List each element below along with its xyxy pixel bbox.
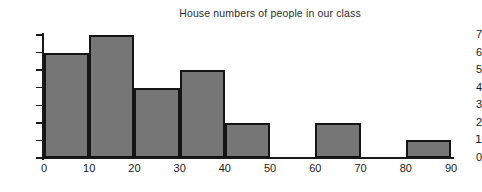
y-tick-label: 5 [456,64,482,75]
x-tick-label: 80 [386,163,426,174]
histogram-bar [180,70,225,158]
y-tick-mark [36,157,43,159]
histogram-chart: House numbers of people in our class 012… [0,0,482,192]
x-tick-label: 40 [205,163,245,174]
histogram-bar [406,140,451,158]
plot-area [44,35,451,158]
y-tick-label: 4 [456,82,482,93]
y-tick-label: 6 [456,47,482,58]
x-tick-label: 60 [295,163,335,174]
chart-title: House numbers of people in our class [0,7,482,19]
y-tick-mark [36,87,43,89]
y-tick-mark [36,105,43,107]
x-tick-label: 90 [431,163,471,174]
y-tick-mark [36,69,43,71]
y-tick-label: 3 [456,99,482,110]
y-tick-mark [36,140,43,142]
y-tick-label: 7 [456,29,482,40]
histogram-bar [315,123,360,158]
x-tick-label: 70 [341,163,381,174]
y-tick-mark [36,34,43,36]
y-tick-mark [36,122,43,124]
y-tick-mark [36,52,43,54]
y-tick-label: 2 [456,117,482,128]
histogram-bar [89,35,134,158]
histogram-bar [44,53,89,158]
y-tick-label: 1 [456,134,482,145]
histogram-bar [134,88,179,158]
y-tick-label: 0 [456,152,482,163]
x-tick-label: 50 [250,163,290,174]
x-tick-label: 10 [69,163,109,174]
histogram-bar [225,123,270,158]
x-tick-label: 20 [114,163,154,174]
x-tick-label: 0 [24,163,64,174]
x-tick-label: 30 [160,163,200,174]
